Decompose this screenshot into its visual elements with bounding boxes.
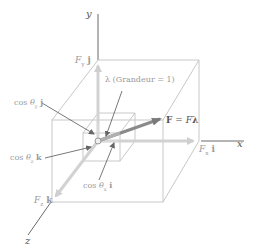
- lambda-label: λ (Grandeur = 1): [105, 76, 175, 84]
- force-label: F = Fλ: [166, 116, 198, 125]
- x-axis-label: x: [237, 139, 243, 149]
- fz-k-label: Fz k: [34, 196, 53, 207]
- leader-cos-y: [42, 103, 94, 134]
- y-axis-label: y: [86, 9, 92, 19]
- vector-diagram: [0, 0, 255, 249]
- cos-z-k-label: cos θz k: [10, 153, 42, 164]
- z-axis: [28, 202, 51, 235]
- cos-y-j-label: cos θy j: [14, 98, 43, 109]
- z-axis-label: z: [25, 236, 30, 246]
- fx-i-label: Fx i: [199, 145, 215, 156]
- origin-point: [95, 138, 101, 144]
- fy-j-label: Fy j: [75, 56, 91, 67]
- cos-x-i-label: cos θx i: [83, 181, 112, 192]
